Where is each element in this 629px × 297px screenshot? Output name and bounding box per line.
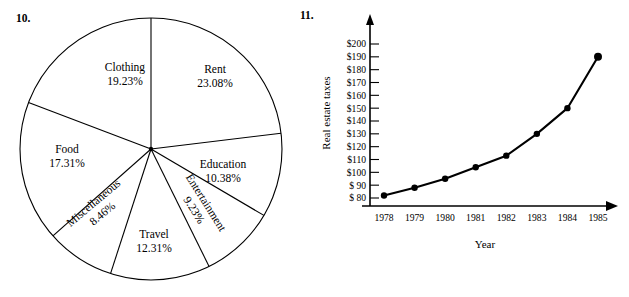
x-tick-label: 1983 xyxy=(527,212,546,223)
pie-chart-canvas: Clothing 19.23% Rent 23.08% Food 17.31% … xyxy=(18,14,284,284)
pie-slice-label-clothing: Clothing 19.23% xyxy=(70,60,180,89)
pie-slice-pct-food: 17.31% xyxy=(24,156,110,170)
figure-pie-chart: 10. Clothing 19.23% Rent 23.08% Food 17.… xyxy=(0,0,300,297)
x-tick-label: 1985 xyxy=(588,212,607,223)
pie-slice-pct-rent: 23.08% xyxy=(170,76,260,90)
pie-slice-name-rent: Rent xyxy=(204,63,226,75)
x-axis-title: Year xyxy=(475,238,496,250)
x-tick-label: 1978 xyxy=(374,212,393,223)
pie-slice-pct-travel: 12.31% xyxy=(114,241,194,255)
pie-center-dot xyxy=(149,147,153,151)
x-tick-label: 1984 xyxy=(558,212,577,223)
figure-line-chart: 11. $ 80$ 90$100$110$120$130$140$150$160… xyxy=(300,0,629,297)
y-axis-arrow-icon xyxy=(366,14,374,25)
x-tick-label: 1982 xyxy=(497,212,516,223)
pie-slice-pct-clothing: 19.23% xyxy=(70,74,180,88)
pie-slice-label-food: Food 17.31% xyxy=(24,142,110,171)
pie-slice-name-clothing: Clothing xyxy=(105,61,145,73)
pie-slice-name-food: Food xyxy=(55,143,79,155)
pie-slice-name-education: Education xyxy=(200,158,247,170)
pie-slice-name-travel: Travel xyxy=(139,228,169,240)
y-axis-ticks: $ 80$ 90$100$110$120$130$140$150$160$170… xyxy=(347,38,379,203)
data-point-marker xyxy=(503,152,509,158)
x-axis-arrow-icon xyxy=(606,201,618,211)
line-chart-canvas: $ 80$ 90$100$110$120$130$140$150$160$170… xyxy=(310,8,625,288)
y-tick-label: $100 xyxy=(347,167,366,178)
y-tick-label: $140 xyxy=(347,115,366,126)
pie-slice-label-travel: Travel 12.31% xyxy=(114,227,194,256)
y-tick-label: $ 80 xyxy=(349,192,366,203)
pie-slice-label-rent: Rent 23.08% xyxy=(170,62,260,91)
y-tick-label: $ 90 xyxy=(349,180,366,191)
data-point-marker xyxy=(411,185,417,191)
y-tick-label: $200 xyxy=(347,38,366,49)
x-tick-label: 1979 xyxy=(405,212,424,223)
x-axis-ticks: 19781979198019811982198319841985 xyxy=(374,206,607,223)
y-tick-label: $160 xyxy=(347,90,366,101)
data-point-marker xyxy=(534,131,540,137)
y-tick-label: $170 xyxy=(347,77,366,88)
x-tick-label: 1981 xyxy=(466,212,485,223)
data-series-line xyxy=(384,57,598,196)
data-point-marker xyxy=(564,105,570,111)
y-tick-label: $120 xyxy=(347,141,366,152)
line-chart-svg: $ 80$ 90$100$110$120$130$140$150$160$170… xyxy=(310,8,625,288)
y-tick-label: $180 xyxy=(347,64,366,75)
data-point-markers xyxy=(381,53,602,199)
y-tick-label: $190 xyxy=(347,51,366,62)
x-tick-label: 1980 xyxy=(436,212,455,223)
y-axis-title: Real estate taxes xyxy=(320,76,332,149)
data-point-marker xyxy=(594,53,602,61)
data-point-marker xyxy=(473,164,479,170)
y-tick-label: $150 xyxy=(347,103,366,114)
y-tick-label: $110 xyxy=(347,154,366,165)
data-point-marker xyxy=(381,192,387,198)
y-tick-label: $130 xyxy=(347,128,366,139)
data-point-marker xyxy=(442,176,448,182)
